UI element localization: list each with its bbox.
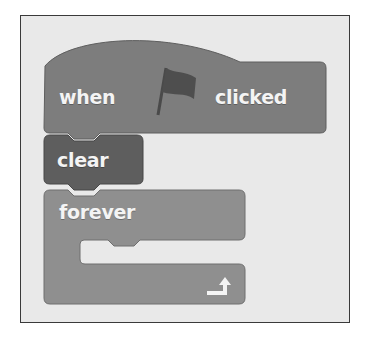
hat-block-label-clicked: clicked: [215, 88, 287, 107]
hat-block-label-when: when: [59, 88, 115, 107]
forever-block-label: forever: [59, 203, 135, 222]
blocks-canvas: [0, 0, 365, 346]
clear-block-label: clear: [57, 151, 108, 170]
